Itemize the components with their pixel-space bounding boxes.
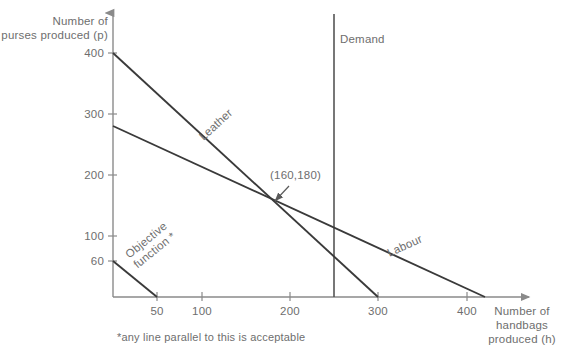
series-label-demand: Demand — [340, 32, 385, 46]
x-axis-title: Number of handbags produced (h) — [483, 304, 561, 346]
x-tick-label-50: 50 — [137, 304, 177, 318]
annotation-label-intersection: (160,180) — [270, 168, 321, 182]
x-axis-title-line1: Number of — [483, 304, 561, 318]
chart-container: Number of purses produced (p) 400 300 20… — [0, 0, 561, 352]
x-tick-label-100: 100 — [182, 304, 222, 318]
y-tick-label-100: 100 — [58, 229, 104, 243]
y-tick-label-300: 300 — [58, 107, 104, 121]
series-line-labour — [113, 126, 485, 297]
x-tick-label-300: 300 — [358, 304, 398, 318]
y-axis-title: Number of purses produced (p) — [0, 14, 108, 42]
x-axis-title-line3: produced (h) — [483, 332, 561, 346]
y-axis-title-line1: Number of — [0, 14, 108, 28]
y-tick-label-400: 400 — [58, 46, 104, 60]
y-axis-title-line2: purses produced (p) — [0, 28, 108, 42]
x-tick-label-200: 200 — [270, 304, 310, 318]
y-tick-label-60: 60 — [58, 254, 104, 268]
y-tick-label-200: 200 — [58, 168, 104, 182]
x-axis-title-line2: handbags — [483, 318, 561, 332]
x-tick-label-400: 400 — [447, 304, 487, 318]
annotation-arrow-intersection — [275, 186, 289, 201]
series-line-leather — [113, 53, 378, 297]
chart-footnote: *any line parallel to this is acceptable — [117, 330, 305, 344]
